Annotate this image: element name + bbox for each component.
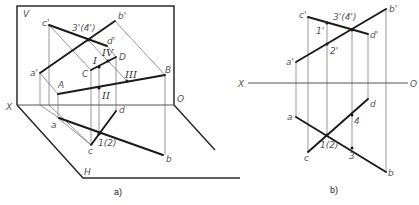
label-a: a	[51, 120, 57, 130]
h-plane-right-edge	[174, 105, 215, 150]
label-II: II	[101, 90, 111, 101]
label-a-b: a	[287, 112, 293, 122]
label-a-prime: a'	[30, 68, 38, 78]
label-12-b: 1(2)	[320, 140, 338, 150]
label-d-prime-b: d'	[370, 30, 378, 40]
label-b-b: b	[388, 168, 394, 178]
label-o: O	[177, 94, 184, 104]
caption-b: b)	[330, 185, 338, 195]
label-D: D	[119, 52, 126, 62]
figure-a-pictorial: V H X O c' b' 3'(4') d' a' C D B A I IV …	[5, 6, 240, 197]
label-o-b: O	[410, 79, 417, 89]
label-2-prime-b: 2'	[330, 46, 338, 56]
label-1-prime-b: 1'	[316, 26, 324, 36]
points-b	[326, 22, 354, 150]
label-c: c	[88, 146, 93, 156]
line-ab	[59, 118, 163, 155]
label-a-prime-b: a'	[286, 57, 294, 67]
label-d: d	[119, 105, 125, 115]
line-AB	[58, 75, 165, 94]
label-c-b: c	[304, 153, 309, 163]
label-IV: IV	[101, 47, 115, 58]
label-C: C	[82, 69, 89, 79]
label-h: H	[84, 167, 91, 177]
label-x: X	[5, 102, 13, 112]
label-v: V	[23, 9, 30, 19]
label-b-prime-b: b'	[389, 4, 397, 14]
label-x-b: X	[237, 79, 245, 89]
label-A: A	[57, 80, 64, 90]
label-c-prime: c'	[42, 18, 49, 28]
label-I: I	[92, 55, 98, 66]
label-III: III	[124, 69, 138, 80]
label-B: B	[165, 65, 171, 75]
caption-a: a)	[114, 187, 122, 197]
label-3-b: 3	[349, 151, 355, 161]
label-d-b: d	[370, 99, 376, 109]
label-34-prime: 3'(4')	[72, 23, 95, 33]
label-4-b: 4	[354, 116, 360, 126]
label-b: b	[166, 154, 172, 164]
line-ab-b	[296, 117, 386, 172]
label-c-prime-b: c'	[299, 10, 306, 20]
projection-diagrams: V H X O c' b' 3'(4') d' a' C D B A I IV …	[0, 0, 419, 205]
label-d-prime: d'	[107, 36, 115, 46]
figure-b-orthographic: X O c' b' 3'(4') d' 1' 2' a' a d c 1(2) …	[237, 4, 417, 195]
label-12: 1(2)	[98, 138, 116, 148]
label-34-prime-b: 3'(4')	[333, 12, 356, 22]
label-b-prime: b'	[118, 11, 126, 21]
